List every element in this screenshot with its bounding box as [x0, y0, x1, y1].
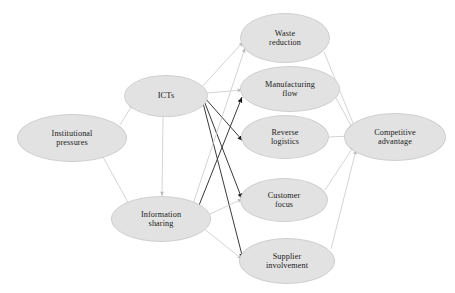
- node-label-customer-focus: Customer focus: [264, 191, 305, 210]
- node-waste-reduction[interactable]: Waste reduction: [240, 13, 330, 63]
- node-label-supplier-involvement: Supplier involvement: [262, 252, 312, 271]
- node-label-waste-reduction: Waste reduction: [265, 29, 305, 48]
- node-reverse-logistics[interactable]: Reverse logistics: [241, 115, 329, 159]
- node-label-icts: ICTs: [154, 91, 179, 101]
- edge-icts-to-manufacturing-flow: [207, 90, 242, 93]
- node-icts[interactable]: ICTs: [124, 75, 208, 117]
- edge-icts-to-supplier-involvement: [202, 99, 243, 259]
- edge-icts-to-customer-focus: [203, 98, 242, 199]
- node-label-institutional-pressures: Institutional pressures: [48, 129, 97, 148]
- edge-information-sharing-to-customer-focus: [206, 199, 242, 216]
- node-information-sharing[interactable]: Information sharing: [111, 196, 211, 242]
- edge-information-sharing-to-waste-reduction: [192, 48, 245, 207]
- node-supplier-involvement[interactable]: Supplier involvement: [239, 238, 335, 284]
- edge-supplier-involvement-to-competitive-advantage: [331, 150, 356, 249]
- node-manufacturing-flow[interactable]: Manufacturing flow: [240, 66, 340, 112]
- edge-customer-focus-to-competitive-advantage: [325, 146, 354, 190]
- node-competitive-advantage[interactable]: Competitive advantage: [344, 113, 446, 161]
- node-customer-focus[interactable]: Customer focus: [240, 178, 328, 222]
- node-label-reverse-logistics: Reverse logistics: [267, 128, 303, 147]
- diagram-canvas: Institutional pressuresICTsInformation s…: [0, 0, 455, 293]
- node-label-manufacturing-flow: Manufacturing flow: [261, 80, 319, 99]
- edge-icts-to-information-sharing: [162, 117, 163, 196]
- edge-institutional-pressures-to-information-sharing: [103, 157, 130, 206]
- node-label-competitive-advantage: Competitive advantage: [370, 128, 420, 147]
- edge-icts-to-reverse-logistics: [204, 97, 243, 141]
- node-institutional-pressures[interactable]: Institutional pressures: [17, 114, 127, 162]
- edge-icts-to-waste-reduction: [201, 42, 243, 88]
- node-label-information-sharing: Information sharing: [137, 210, 185, 229]
